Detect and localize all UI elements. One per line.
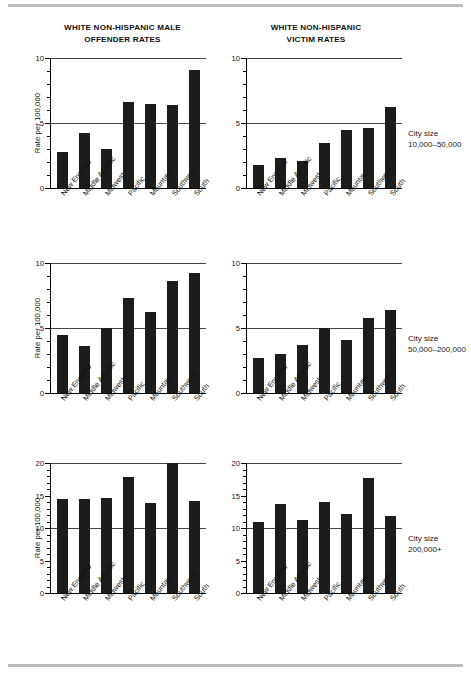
x-axis-label-slot: Midwest [94,395,116,455]
row-annotation-city-size-large: City size 200,000+ [408,533,470,555]
bar-series [51,58,206,188]
bar-series [51,263,206,393]
x-axis-label-slot: Middle Atlantic [268,395,290,455]
x-axis-label-slot: Midwest [290,595,312,655]
bar-series [51,463,206,593]
y-axis-tick-label: 15 [36,491,44,500]
y-axis-tick-label: 5 [40,556,44,565]
chart-panel-bottom-left: Rate per 100,00005101520New EnglandMiddl… [28,455,218,660]
y-axis-tick-label: 0 [40,389,44,398]
x-axis-labels: New EnglandMiddle AtlanticMidwestPacific… [246,190,401,252]
bar [57,499,68,593]
x-axis-label-slot: Pacific [313,395,335,455]
annotation-line2: 10,000–50,000 [408,139,470,150]
x-axis-label-slot: Middle Atlantic [268,190,290,250]
y-axis-tick-label: 5 [40,324,44,333]
y-axis-tick-label: 0 [40,184,44,193]
y-axis-tick-label: 10 [232,524,240,533]
x-axis-label-slot: Pacific [117,190,139,250]
x-axis-label-slot: Southwest [161,595,183,655]
row-annotation-city-size-medium: City size 50,000–200,000 [408,333,470,355]
y-axis-major-tick [241,593,247,594]
column-title-offender-line1: WHITE NON-HISPANIC MALE [30,22,215,34]
bar [57,335,68,394]
chart-row-city-size-medium: Rate per 100,0000510New EnglandMiddle At… [0,255,471,460]
chart-panel-middle-left: Rate per 100,0000510New EnglandMiddle At… [28,255,218,460]
chart-row-city-size-small: Rate per 100,0000510New EnglandMiddle At… [0,50,471,255]
top-divider-rule [8,4,463,7]
row-annotation-city-size-small: City size 10,000–50,000 [408,128,470,150]
bar [145,104,156,189]
bar-series [247,263,402,393]
x-axis-label-slot: Southwest [161,190,183,250]
x-axis-label-slot: Mountain [335,395,357,455]
x-axis-label-slot: Southwest [161,395,183,455]
annotation-line2: 50,000–200,000 [408,344,470,355]
x-axis-label-slot: Midwest [290,190,312,250]
annotation-line2: 200,000+ [408,544,470,555]
x-axis-label-slot: Pacific [313,190,335,250]
x-axis-label-slot: Pacific [117,595,139,655]
y-axis-major-tick [45,393,51,394]
x-axis-label-slot: Midwest [94,595,116,655]
y-axis-tick-label: 10 [36,54,44,63]
plot-area: Rate per 100,0000510 [50,263,206,394]
y-axis-major-tick [241,188,247,189]
x-axis-label-slot: Southwest [357,595,379,655]
plot-area: 0510 [246,263,402,394]
y-axis-tick-label: 20 [232,459,240,468]
x-axis-label-slot: New England [50,395,72,455]
annotation-line1: City size [408,128,470,139]
bar [123,477,134,593]
chart-panel-bottom-right: 05101520New EnglandMiddle AtlanticMidwes… [224,455,414,660]
bar-series [247,463,402,593]
bar [341,514,352,593]
y-axis-tick-label: 10 [36,524,44,533]
y-axis-tick-label: 0 [236,589,240,598]
plot-area: Rate per 100,00005101520 [50,463,206,594]
x-axis-label-slot: Midwest [290,395,312,455]
x-axis-label-slot: Midwest [94,190,116,250]
x-axis-label-slot: Mountain [139,190,161,250]
x-axis-labels: New EnglandMiddle AtlanticMidwestPacific… [50,190,205,252]
x-axis-label-slot: Mountain [335,190,357,250]
bar [145,503,156,593]
x-axis-label-slot: Middle Atlantic [72,395,94,455]
x-axis-label-slot: Middle Atlantic [268,595,290,655]
y-axis-tick-label: 20 [36,459,44,468]
y-axis-tick-label: 10 [232,54,240,63]
plot-area: Rate per 100,0000510 [50,58,206,189]
y-axis-tick-label: 5 [236,119,240,128]
column-titles: WHITE NON-HISPANIC MALE OFFENDER RATES W… [0,22,471,48]
x-axis-label-slot: South [183,395,205,455]
x-axis-label-slot: New England [246,595,268,655]
column-title-offender: WHITE NON-HISPANIC MALE OFFENDER RATES [30,22,215,45]
x-axis-label-slot: South [183,190,205,250]
y-axis-tick-label: 5 [40,119,44,128]
bar [319,143,330,189]
x-axis-label-slot: Middle Atlantic [72,595,94,655]
x-axis-label-slot: Mountain [139,395,161,455]
chart-panel-middle-right: 0510New EnglandMiddle AtlanticMidwestPac… [224,255,414,460]
x-axis-label-slot: Southwest [357,395,379,455]
bar [167,463,178,593]
x-axis-label-slot: New England [50,595,72,655]
x-axis-label-slot: Pacific [117,395,139,455]
bottom-divider-rule [8,664,463,667]
y-axis-tick-label: 10 [232,259,240,268]
x-axis-label-slot: New England [246,190,268,250]
plot-area: 05101520 [246,463,402,594]
x-axis-label-slot: Southwest [357,190,379,250]
x-axis-labels: New EnglandMiddle AtlanticMidwestPacific… [50,395,205,457]
x-axis-label-slot: New England [246,395,268,455]
x-axis-label-slot: South [379,595,401,655]
y-axis-tick-label: 5 [236,324,240,333]
x-axis-label-slot: South [183,595,205,655]
y-axis-tick-label: 15 [232,491,240,500]
bar [253,522,264,594]
bar-series [247,58,402,188]
plot-area: 0510 [246,58,402,189]
y-axis-tick-label: 0 [236,184,240,193]
x-axis-label-slot: South [379,395,401,455]
annotation-line1: City size [408,333,470,344]
